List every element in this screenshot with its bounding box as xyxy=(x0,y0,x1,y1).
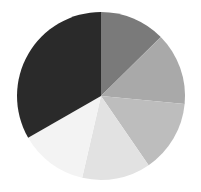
pie-chart xyxy=(0,0,201,192)
pie-chart-svg xyxy=(0,0,201,192)
